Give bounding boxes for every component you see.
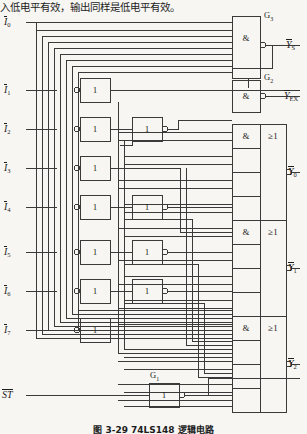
and-1a-symbol: & [242,131,249,141]
link-inv4-down [124,207,192,219]
inverter-2-input-bubble [74,126,79,131]
inverter-1-symbol: 1 [93,85,98,95]
inverter-5-input-bubble [74,249,79,254]
inverter-8-output-bubble [162,126,167,131]
inverter-3-symbol: 1 [93,163,98,173]
inverter-8-symbol: 1 [145,124,150,134]
link-inv5-down [124,252,198,264]
input-label-I3: I3 [4,162,11,175]
circuit-schematic: 1 1 1 1 1 1 1 1 1 1 1 1 & & & & & ≥1 ≥1 … [0,0,307,434]
output-label-Y1: Y1 [288,262,297,275]
and-1c-box [232,172,260,196]
gate-G3-box [232,16,260,78]
bus-I7 [78,72,232,310]
inverter-4-input-bubble [74,204,79,209]
inverter-2-symbol: 1 [93,124,98,134]
inverter-10-output-bubble [162,249,167,254]
link-inv3-stack [180,168,232,232]
gate-G1-output-bubble [179,392,184,397]
or-gate-3-symbol: ≥1 [268,323,277,333]
gate-G2-output-bubble [260,93,265,98]
inverter-1-input-bubble [74,87,79,92]
or-gate-2-symbol: ≥1 [268,227,277,237]
inverter-9-output-bubble [162,204,167,209]
output-label-YEX: YEX [284,90,298,103]
link-inv2-down [120,129,132,145]
and-3d-box [232,388,260,412]
gate-G3-output-bubble [260,42,265,47]
figure-caption: 图 3-29 74LS148 逻辑电路 [0,423,307,434]
gate-label-G3: G3 [264,10,273,22]
gate-label-G1: G1 [150,370,159,382]
figure-root: 入低电平有效，输出同样是低电平有效。 [0,0,307,434]
input-label-I2: I2 [4,123,11,136]
bus-I1 [42,36,232,334]
inverter-4-symbol: 1 [93,202,98,212]
input-label-I6: I6 [4,285,11,298]
inverter-10-symbol: 1 [145,247,150,257]
and-3c-box [232,364,260,388]
and-1b-box [232,148,260,172]
input-label-I7: I7 [4,324,11,337]
inverter-6-input-bubble [74,288,79,293]
and-2a-symbol: & [242,227,249,237]
inverter-5-symbol: 1 [93,247,98,257]
bus-I0 [36,30,232,338]
inverter-11-symbol: 1 [145,286,150,296]
bus-I6 [72,66,232,314]
inverter-3-input-bubble [74,165,79,170]
inverter-7-symbol: 1 [93,325,98,335]
bus-I2 [48,42,232,330]
and-2b-box [232,244,260,268]
input-label-I0: I0 [4,16,11,29]
gate-label-G2: G2 [264,72,273,84]
feed-bus-e [198,264,232,377]
gate-G3-symbol: & [242,33,249,43]
output-label-YS: YS [286,39,295,52]
output-label-Y0: Y0 [288,166,297,179]
inverter-8-out-wire [168,120,232,129]
input-label-I4: I4 [4,201,11,214]
and-2d-box [232,292,260,316]
and-2c-box [232,268,260,292]
and-3a-symbol: & [242,323,249,333]
or-gate-1-symbol: ≥1 [268,131,277,141]
inverter-11-output-bubble [162,288,167,293]
output-label-Y2: Y2 [288,358,297,371]
input-label-ST: ST [2,389,13,400]
ys-feedback [232,45,272,68]
input-label-I1: I1 [4,84,11,97]
inverter-6-symbol: 1 [93,286,98,296]
gate-G1-symbol: 1 [162,390,167,400]
input-label-I5: I5 [4,246,11,259]
inverter-9-symbol: 1 [145,202,150,212]
and-3b-box [232,340,260,364]
gate-G2-symbol: & [242,91,249,101]
and-1d-box [232,196,260,220]
